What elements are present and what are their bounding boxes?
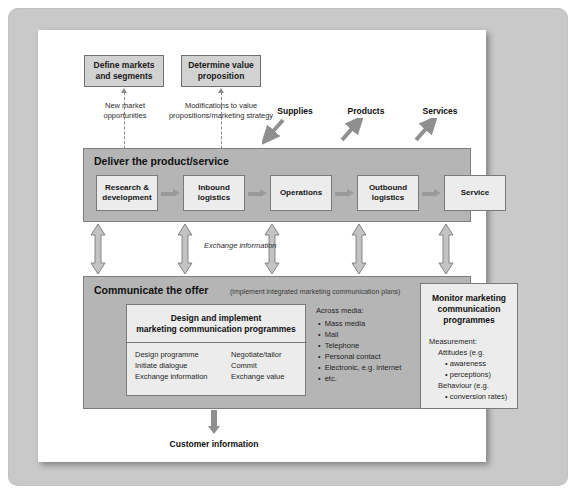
design-implement-box: Design and implement marketing communica… bbox=[126, 304, 306, 396]
communicate-band: Communicate the offer (implement integra… bbox=[83, 276, 471, 409]
monitor-line-3: • perceptions) bbox=[429, 369, 507, 380]
design-implement-title-line2: marketing communication programmes bbox=[136, 324, 296, 334]
communicate-band-subtitle: (implement integrated marketing communic… bbox=[230, 288, 400, 295]
media-item-4: Electronic, e.g. internet bbox=[318, 362, 401, 373]
chain-box-inbound-logistics-label: Inbound logistics bbox=[184, 183, 244, 203]
chain-arrow-1-icon bbox=[161, 189, 180, 198]
exchange-arrow-2-icon bbox=[175, 223, 195, 275]
design-implement-title: Design and implement marketing communica… bbox=[127, 313, 305, 335]
chain-box-inbound-logistics: Inbound logistics bbox=[183, 175, 245, 211]
monitor-box: Monitor marketing communication programm… bbox=[420, 283, 518, 409]
monitor-title-line3: programmes bbox=[443, 315, 495, 325]
across-media-list: Mass media Mail Telephone Personal conta… bbox=[318, 318, 401, 384]
exchange-arrow-1-icon bbox=[88, 223, 108, 275]
design-implement-divider bbox=[127, 342, 307, 343]
chain-box-operations: Operations bbox=[270, 175, 332, 211]
monitor-box-title: Monitor marketing communication programm… bbox=[421, 293, 517, 326]
monitor-line-1: Attitudes (e.g. bbox=[429, 347, 507, 358]
supplies-in-arrow-icon bbox=[262, 118, 292, 148]
feedback-arrowhead-1 bbox=[121, 88, 127, 93]
outer-frame: Define markets and segments Determine va… bbox=[8, 8, 568, 486]
chain-arrow-4-icon bbox=[422, 189, 441, 198]
feedback-arrowhead-2 bbox=[218, 88, 224, 93]
monitor-line-5: • conversion rates) bbox=[429, 391, 507, 402]
design-right-item-0: Negotiate/tailor bbox=[231, 349, 284, 360]
chain-box-service: Service bbox=[444, 175, 506, 211]
monitor-line-2: • awareness bbox=[429, 358, 507, 369]
across-media-heading: Across media: bbox=[316, 306, 364, 315]
design-implement-right-column: Negotiate/tailor Commit Exchange value bbox=[231, 349, 284, 382]
feedback-caption-2-line2: propositions/marketing strategy bbox=[169, 111, 273, 120]
box-determine-value-label: Determine value proposition bbox=[182, 60, 260, 82]
deliver-band-title: Deliver the product/service bbox=[94, 155, 229, 167]
design-implement-left-column: Design programme Initiate dialogue Excha… bbox=[135, 349, 208, 382]
design-right-item-2: Exchange value bbox=[231, 371, 284, 382]
monitor-title-line2: communication bbox=[438, 304, 501, 314]
monitor-box-body: Measurement: Attitudes (e.g. • awareness… bbox=[429, 336, 507, 402]
chain-box-operations-label: Operations bbox=[280, 188, 322, 198]
diagram-page: Define markets and segments Determine va… bbox=[38, 30, 486, 462]
media-item-0: Mass media bbox=[318, 318, 401, 329]
box-define-markets: Define markets and segments bbox=[84, 55, 164, 87]
exchange-arrow-4-icon bbox=[349, 223, 369, 275]
monitor-title-line1: Monitor marketing bbox=[432, 293, 506, 303]
services-out-arrow-icon bbox=[412, 118, 442, 148]
media-item-2: Telephone bbox=[318, 340, 401, 351]
design-right-item-1: Commit bbox=[231, 360, 284, 371]
media-item-5: etc. bbox=[318, 373, 401, 384]
exchange-information-label: Exchange information bbox=[204, 241, 277, 250]
chain-box-service-label: Service bbox=[461, 188, 489, 198]
chain-box-outbound-logistics-label: Outbound logistics bbox=[358, 183, 418, 203]
chain-box-outbound-logistics: Outbound logistics bbox=[357, 175, 419, 211]
box-define-markets-label: Define markets and segments bbox=[85, 60, 163, 82]
chain-box-research-development-label: Research & development bbox=[97, 183, 157, 203]
monitor-line-0: Measurement: bbox=[429, 336, 507, 347]
products-out-arrow-icon bbox=[338, 118, 368, 148]
exchange-arrow-5-icon bbox=[436, 223, 456, 275]
communicate-band-title: Communicate the offer bbox=[94, 284, 208, 296]
deliver-band: Deliver the product/service Research & d… bbox=[83, 148, 471, 222]
design-left-item-0: Design programme bbox=[135, 349, 208, 360]
media-item-3: Personal contact bbox=[318, 351, 401, 362]
monitor-line-4: Behaviour (e.g. bbox=[429, 380, 507, 391]
chain-box-research-development: Research & development bbox=[96, 175, 158, 211]
feedback-caption-1-line1: New market bbox=[105, 101, 145, 110]
chain-arrow-2-icon bbox=[248, 189, 267, 198]
design-left-item-1: Initiate dialogue bbox=[135, 360, 208, 371]
design-implement-title-line1: Design and implement bbox=[171, 313, 262, 323]
io-label-supplies: Supplies bbox=[265, 106, 325, 116]
feedback-caption-2-line1: Modifications to value bbox=[185, 101, 257, 110]
io-label-products: Products bbox=[336, 106, 396, 116]
box-determine-value: Determine value proposition bbox=[181, 55, 261, 87]
customer-information-label: Customer information bbox=[154, 439, 274, 449]
media-item-1: Mail bbox=[318, 329, 401, 340]
feedback-caption-1-line2: opportunities bbox=[104, 111, 147, 120]
chain-arrow-3-icon bbox=[335, 189, 354, 198]
io-label-services: Services bbox=[410, 106, 470, 116]
design-left-item-2: Exchange information bbox=[135, 371, 208, 382]
